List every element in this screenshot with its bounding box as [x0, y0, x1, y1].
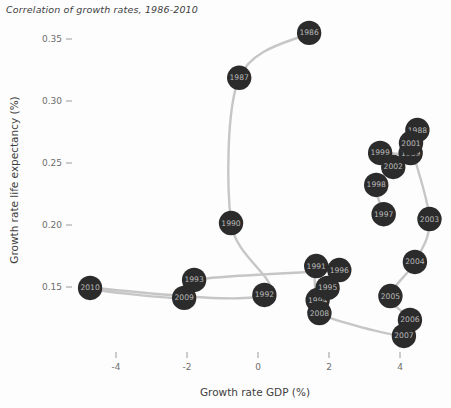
- y-tick-label: 0.35: [42, 34, 62, 44]
- data-point-marker[interactable]: [392, 324, 416, 348]
- data-point-2008[interactable]: 2008: [307, 301, 331, 325]
- data-point-1998[interactable]: 1998: [364, 173, 388, 197]
- data-point-marker[interactable]: [399, 131, 423, 155]
- data-point-1986[interactable]: 1986: [297, 21, 321, 45]
- data-point-marker[interactable]: [297, 21, 321, 45]
- data-point-marker[interactable]: [417, 207, 441, 231]
- chart-container: Correlation of growth rates, 1986-2010 -…: [0, 0, 451, 408]
- data-point-marker[interactable]: [327, 258, 351, 282]
- data-point-2010[interactable]: 2010: [78, 276, 102, 300]
- data-point-1992[interactable]: 1992: [252, 283, 276, 307]
- y-tick-label: 0.30: [42, 96, 62, 106]
- data-point-2003[interactable]: 2003: [417, 207, 441, 231]
- data-point-marker[interactable]: [364, 173, 388, 197]
- scatter-plot: -4-2024 0.150.200.250.300.35 19861987198…: [0, 0, 451, 408]
- data-point-marker[interactable]: [219, 211, 243, 235]
- x-tick-label: -4: [112, 362, 121, 372]
- data-point-1990[interactable]: 1990: [219, 211, 243, 235]
- y-tick-label: 0.25: [42, 158, 62, 168]
- x-axis-title: Growth rate GDP (%): [200, 386, 310, 398]
- y-tick-label: 0.15: [42, 282, 62, 292]
- data-point-marker[interactable]: [227, 66, 251, 90]
- y-axis-ticks: 0.150.200.250.300.35: [42, 34, 72, 292]
- x-tick-label: 2: [326, 362, 332, 372]
- data-point-1987[interactable]: 1987: [227, 66, 251, 90]
- data-point-marker[interactable]: [371, 202, 395, 226]
- data-point-marker[interactable]: [252, 283, 276, 307]
- data-point-2002[interactable]: 2002: [381, 155, 405, 179]
- data-point-2001[interactable]: 2001: [399, 131, 423, 155]
- data-point-1991[interactable]: 1991: [304, 254, 328, 278]
- x-tick-label: -2: [183, 362, 192, 372]
- data-point-group: 1986198719881989199019911992199319941995…: [78, 21, 442, 348]
- data-point-1997[interactable]: 1997: [371, 202, 395, 226]
- data-point-marker[interactable]: [381, 155, 405, 179]
- data-point-marker[interactable]: [304, 254, 328, 278]
- y-tick-label: 0.20: [42, 220, 62, 230]
- x-axis-ticks: -4-2024: [112, 352, 404, 372]
- x-tick-label: 4: [397, 362, 403, 372]
- data-point-2005[interactable]: 2005: [378, 284, 402, 308]
- data-point-2004[interactable]: 2004: [403, 250, 427, 274]
- data-point-2009[interactable]: 2009: [172, 286, 196, 310]
- data-point-marker[interactable]: [403, 250, 427, 274]
- data-point-2007[interactable]: 2007: [392, 324, 416, 348]
- data-point-marker[interactable]: [172, 286, 196, 310]
- data-point-marker[interactable]: [378, 284, 402, 308]
- data-point-marker[interactable]: [78, 276, 102, 300]
- y-axis-title: Growth rate life expectancy (%): [8, 96, 20, 263]
- data-point-1996[interactable]: 1996: [327, 258, 351, 282]
- data-point-marker[interactable]: [307, 301, 331, 325]
- x-tick-label: 0: [255, 362, 261, 372]
